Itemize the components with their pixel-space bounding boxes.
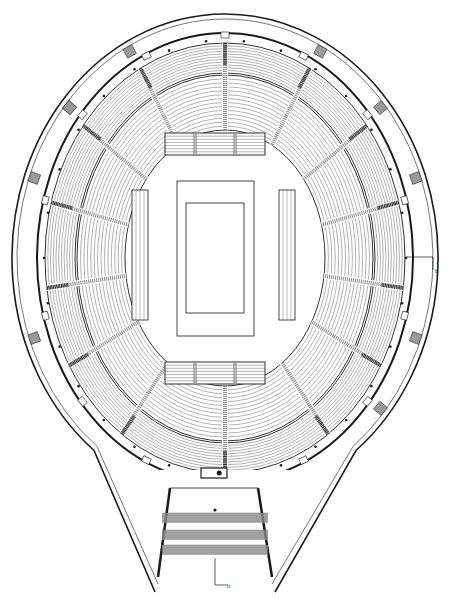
arena-floor-plan: bb	[0, 0, 451, 598]
perimeter-stair-block	[123, 45, 137, 59]
perimeter-stair-block	[373, 101, 387, 115]
end-stand-aisle	[193, 133, 197, 155]
column-dot	[133, 68, 136, 71]
column-dot	[314, 68, 317, 71]
aisle-steps	[282, 363, 328, 434]
perimeter-stair-block	[28, 172, 41, 185]
vomitory-opening	[401, 311, 409, 320]
vomitory-opening	[78, 110, 88, 120]
column-dot	[133, 445, 136, 448]
end-stand-aisle	[193, 362, 197, 384]
section-marker-south-label: b	[227, 582, 231, 590]
perimeter-stair-block	[314, 45, 328, 59]
end-stand-aisle	[233, 133, 237, 155]
aisle-steps	[122, 363, 168, 434]
section-marker-east	[406, 257, 433, 270]
control-box-column	[217, 471, 222, 476]
vomitory-opening	[363, 110, 373, 120]
perimeter-stair-block	[373, 401, 387, 415]
column-dot	[314, 445, 317, 448]
perimeter-stair-block	[28, 332, 41, 345]
column-dot	[345, 419, 348, 422]
vomitory-opening	[363, 396, 373, 406]
entrance-stair-flight	[162, 513, 268, 523]
entrance-column	[213, 508, 216, 511]
column-dot	[103, 419, 106, 422]
column-dot	[345, 95, 348, 98]
vomitory-opening	[401, 196, 409, 205]
column-dot	[205, 40, 208, 43]
column-dot	[280, 49, 283, 52]
entrance-stair-flight	[162, 545, 268, 555]
vomitory-opening	[41, 311, 49, 320]
column-dot	[243, 40, 246, 43]
column-dot	[168, 464, 171, 467]
vomitory-opening	[41, 196, 49, 205]
column-dot	[103, 95, 106, 98]
vomitory-opening	[221, 32, 229, 38]
main-entrance-stair	[150, 468, 300, 577]
column-dot	[280, 464, 283, 467]
perimeter-stair-block	[62, 101, 76, 115]
perimeter-stair-block	[409, 332, 422, 345]
section-marker-south	[215, 558, 227, 585]
end-stand-aisle	[233, 362, 237, 384]
playing-court	[177, 181, 254, 336]
perimeter-stair-block	[409, 172, 422, 185]
section-marker-east-label: b	[435, 267, 439, 275]
column-dot	[168, 49, 171, 52]
control-box	[201, 468, 227, 478]
entrance-stair-flight	[162, 530, 268, 540]
vomitory-opening	[78, 396, 88, 406]
